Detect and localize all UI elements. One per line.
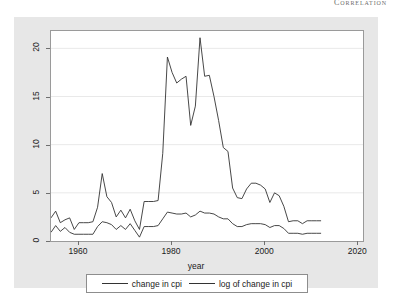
y-tick-10: 10 [31, 136, 41, 152]
legend-line-swatch [102, 283, 128, 284]
x-tick-2020: 2020 [337, 246, 377, 256]
y-tick-20: 20 [31, 39, 41, 55]
y-tick-5: 5 [31, 184, 41, 200]
running-head: Correlation [334, 0, 387, 7]
legend-line-swatch [189, 283, 215, 284]
x-tick-2000: 2000 [244, 246, 284, 256]
y-tick-15: 15 [31, 88, 41, 104]
legend-item-log-of-change-in-cpi: log of change in cpi [189, 279, 292, 289]
legend-item-change-in-cpi: change in cpi [102, 279, 182, 289]
legend-item-label: change in cpi [132, 279, 182, 289]
x-tick-1980: 1980 [151, 246, 191, 256]
figure-panel: change and log of change in cpi 05101520… [14, 17, 378, 288]
x-tick-mark [264, 241, 265, 245]
plot-svg [51, 31, 363, 241]
x-tick-1960: 1960 [58, 246, 98, 256]
x-tick-mark [78, 241, 79, 245]
series-line-0 [51, 38, 321, 230]
x-axis-label: year [14, 261, 378, 271]
y-tick-0: 0 [31, 232, 41, 248]
legend-item-label: log of change in cpi [219, 279, 292, 289]
x-tick-mark [357, 241, 358, 245]
plot-area [50, 30, 364, 242]
chart-legend: change in cpi log of change in cpi [86, 274, 308, 293]
series-line-1 [51, 211, 321, 237]
x-tick-mark [171, 241, 172, 245]
